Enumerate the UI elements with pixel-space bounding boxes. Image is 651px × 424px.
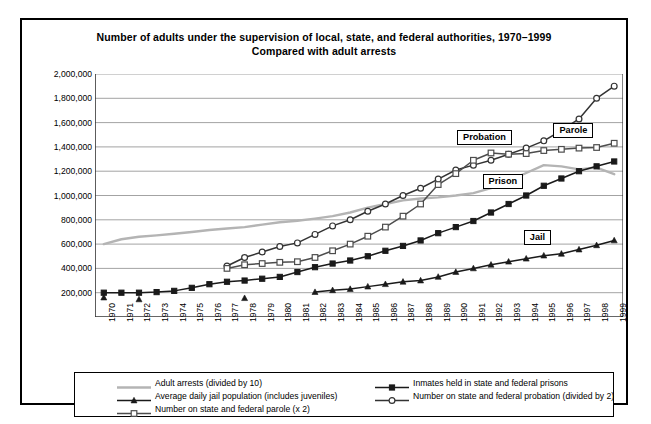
annotation-parole: Parole <box>553 123 593 138</box>
x-axis-label: 1982 <box>318 303 328 322</box>
data-point-marker <box>383 224 389 230</box>
data-point-marker <box>365 208 371 214</box>
y-axis-label: 400,000 <box>61 263 92 273</box>
data-point-marker <box>312 255 318 261</box>
legend-label-arrests: Adult arrests (divided by 10) <box>155 378 262 388</box>
data-point-marker <box>389 398 395 404</box>
annotation-prison: Prison <box>483 174 524 189</box>
data-point-marker <box>189 285 194 290</box>
chart-title-block: Number of adults under the supervision o… <box>22 30 626 58</box>
legend-marker-parole <box>117 405 151 423</box>
data-point-marker <box>260 276 265 281</box>
x-axis-label: 1981 <box>301 303 311 322</box>
data-point-marker <box>154 289 159 294</box>
data-point-marker <box>131 411 137 417</box>
data-point-marker <box>330 261 335 266</box>
data-point-marker <box>400 213 406 219</box>
y-axis-label: 200,000 <box>61 288 92 298</box>
x-axis-label: 1977 <box>230 303 240 322</box>
data-point-marker <box>365 233 371 239</box>
x-axis-label: 1989 <box>442 303 452 322</box>
data-point-marker <box>277 260 283 266</box>
legend-label-prison: Inmates held in state and federal prison… <box>413 378 568 388</box>
data-point-marker <box>594 164 599 169</box>
data-point-marker <box>471 157 477 163</box>
data-point-marker <box>576 116 582 122</box>
x-axis-label: 1995 <box>547 303 557 322</box>
data-point-marker <box>312 231 318 237</box>
data-point-marker <box>259 249 265 255</box>
data-point-marker <box>524 193 529 198</box>
x-axis-label: 1996 <box>565 303 575 322</box>
data-point-marker <box>224 266 230 272</box>
legend-label-jail: Average daily jail population (includes … <box>155 391 337 401</box>
x-axis-label: 1986 <box>389 303 399 322</box>
data-point-marker <box>295 259 301 265</box>
data-point-marker <box>136 296 142 302</box>
series-line-prison <box>104 161 614 292</box>
y-axis-label: 1,600,000 <box>54 118 92 128</box>
data-point-marker <box>224 279 229 284</box>
data-point-marker <box>471 218 476 223</box>
data-point-marker <box>453 224 458 229</box>
data-point-marker <box>594 95 600 101</box>
x-axis-label: 1991 <box>477 303 487 322</box>
data-point-marker <box>488 157 494 163</box>
data-point-marker <box>435 182 441 188</box>
data-point-marker <box>348 258 353 263</box>
data-point-marker <box>541 148 547 154</box>
x-axis-label: 1988 <box>424 303 434 322</box>
data-point-marker <box>383 248 388 253</box>
series-jail <box>101 237 617 302</box>
data-point-marker <box>435 176 441 182</box>
chart-subtitle: Compared with adult arrests <box>22 44 626 58</box>
x-axis-label: 1994 <box>530 303 540 322</box>
data-point-marker <box>400 243 405 248</box>
data-point-marker <box>259 261 265 267</box>
data-point-marker <box>330 223 336 229</box>
series-line-jail <box>315 240 614 292</box>
data-point-marker <box>242 278 247 283</box>
data-point-marker <box>242 262 248 268</box>
data-point-marker <box>277 244 283 250</box>
data-point-marker <box>506 201 511 206</box>
data-point-marker <box>559 147 565 153</box>
y-axis-label: 800,000 <box>61 215 92 225</box>
x-axis-label: 1970 <box>107 303 117 322</box>
data-point-marker <box>436 231 441 236</box>
data-point-marker <box>347 217 353 223</box>
y-axis-label: 1,800,000 <box>54 93 92 103</box>
x-axis-label: 1985 <box>371 303 381 322</box>
x-axis-label: 1979 <box>266 303 276 322</box>
annotation-probation: Probation <box>457 130 512 145</box>
data-point-marker <box>559 176 564 181</box>
data-point-marker <box>312 265 317 270</box>
annotation-jail: Jail <box>524 230 551 245</box>
series-prison <box>101 159 617 295</box>
chart-legend: Adult arrests (divided by 10)Inmates hel… <box>74 372 614 417</box>
data-point-marker <box>418 201 424 207</box>
data-point-marker <box>242 295 248 301</box>
chart-svg <box>95 74 623 317</box>
x-axis-label: 1997 <box>582 303 592 322</box>
x-axis-label: 1975 <box>195 303 205 322</box>
legend-label-parole: Number on state and federal parole (x 2) <box>155 404 310 414</box>
x-axis-label: 1984 <box>354 303 364 322</box>
x-axis-label: 1971 <box>125 303 135 322</box>
x-axis-label: 1999 <box>618 303 628 322</box>
data-point-marker <box>295 269 300 274</box>
y-axis-label: 1,200,000 <box>54 166 92 176</box>
x-axis-tick-labels: 1970197119721973197419751976197719781979… <box>95 320 623 366</box>
data-point-marker <box>453 171 459 177</box>
data-point-marker <box>172 288 177 293</box>
data-point-marker <box>136 290 141 295</box>
data-point-marker <box>418 238 423 243</box>
x-axis-label: 1987 <box>406 303 416 322</box>
data-point-marker <box>594 145 600 151</box>
x-axis-label: 1990 <box>459 303 469 322</box>
x-axis-label: 1998 <box>600 303 610 322</box>
y-axis-label: 1,000,000 <box>54 191 92 201</box>
data-point-marker <box>488 150 494 156</box>
data-point-marker <box>330 248 336 254</box>
data-point-marker <box>400 193 406 199</box>
